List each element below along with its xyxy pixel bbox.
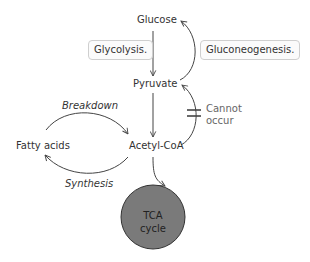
tca-label-line1: TCA (122, 209, 184, 222)
node-acetyl-coa: Acetyl-CoA (129, 140, 183, 152)
node-pyruvate: Pyruvate (133, 78, 178, 90)
tca-cycle-label: TCA cycle (122, 209, 184, 235)
metabolic-pathway-diagram: Glucose Pyruvate Acetyl-CoA Fatty acids … (0, 0, 310, 262)
label-breakdown: Breakdown (62, 100, 118, 112)
glycolysis-box: Glycolysis. (88, 40, 153, 60)
label-occur: occur (206, 115, 234, 127)
label-cannot: Cannot (206, 103, 242, 115)
label-synthesis: Synthesis (65, 178, 113, 190)
node-fatty-acids: Fatty acids (16, 140, 70, 152)
node-glucose: Glucose (137, 14, 177, 26)
gluconeogenesis-box: Gluconeogenesis. (200, 40, 300, 60)
tca-label-line2: cycle (122, 222, 184, 235)
